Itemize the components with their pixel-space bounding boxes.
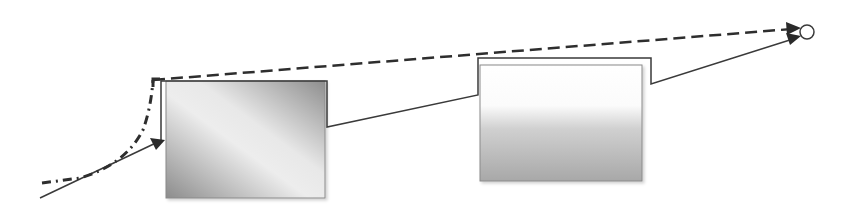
box-left bbox=[166, 81, 325, 198]
solid-flow-line bbox=[40, 141, 160, 198]
dash-dot-curve bbox=[42, 80, 153, 183]
arrowhead-icon bbox=[786, 22, 801, 35]
box-right bbox=[480, 65, 642, 181]
dashed-line bbox=[153, 29, 792, 80]
flow-diagram bbox=[0, 0, 847, 211]
endpoint-circle-icon bbox=[800, 25, 814, 39]
dashed-line-corner bbox=[153, 79, 160, 87]
arrowhead-icon bbox=[786, 33, 801, 45]
